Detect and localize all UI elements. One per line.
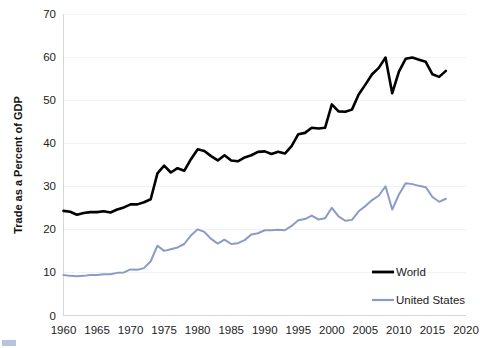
legend-label-world: World <box>396 266 426 278</box>
x-tick-label-1980: 1980 <box>185 324 211 336</box>
x-tick-label-1975: 1975 <box>151 324 177 336</box>
x-tick-label-1985: 1985 <box>218 324 244 336</box>
y-tick-label-40: 40 <box>43 137 56 149</box>
y-tick-label-30: 30 <box>43 180 56 192</box>
y-tick-label-50: 50 <box>43 94 56 106</box>
legend-label-united-states: United States <box>396 294 465 306</box>
trade-percent-gdp-line-chart: 010203040506070 196019651970197519801985… <box>0 0 480 348</box>
y-tick-label-10: 10 <box>43 266 56 278</box>
y-axis-title: Trade as a Percent of GDP <box>12 96 24 234</box>
y-tick-label-70: 70 <box>43 8 56 20</box>
x-tick-label-2005: 2005 <box>353 324 379 336</box>
x-tick-label-2000: 2000 <box>319 324 345 336</box>
x-tick-label-2010: 2010 <box>386 324 412 336</box>
x-tick-label-1960: 1960 <box>51 324 77 336</box>
x-tick-label-1965: 1965 <box>84 324 110 336</box>
x-tick-label-1970: 1970 <box>118 324 144 336</box>
series-line-world <box>64 58 446 215</box>
x-tick-label-1990: 1990 <box>252 324 278 336</box>
x-tick-label-2020: 2020 <box>453 324 479 336</box>
y-tick-label-0: 0 <box>50 310 56 322</box>
x-axis-tick-labels: 1960196519701975198019851990199520002005… <box>51 324 479 336</box>
chart-container: 010203040506070 196019651970197519801985… <box>0 0 480 348</box>
y-axis-tick-labels: 010203040506070 <box>43 8 56 322</box>
y-tick-label-20: 20 <box>43 223 56 235</box>
y-tick-label-60: 60 <box>43 51 56 63</box>
x-tick-label-2015: 2015 <box>420 324 446 336</box>
gridlines <box>64 15 467 273</box>
series-lines <box>64 58 446 277</box>
x-tick-label-1995: 1995 <box>285 324 311 336</box>
corner-artifact <box>2 340 16 346</box>
